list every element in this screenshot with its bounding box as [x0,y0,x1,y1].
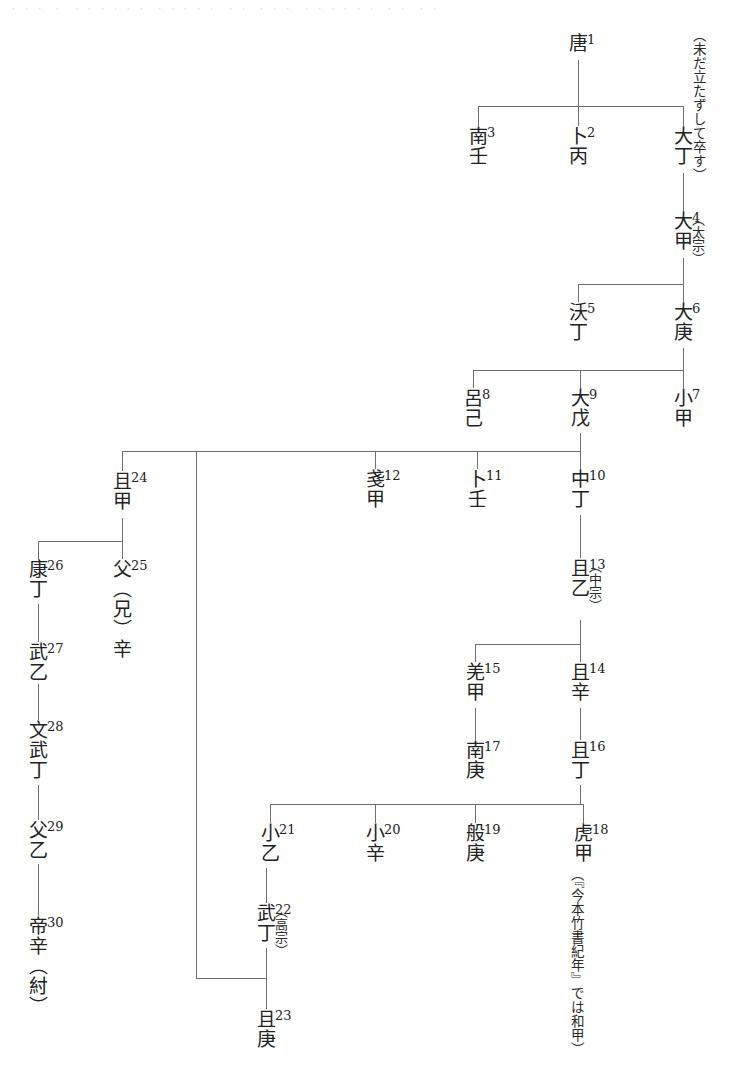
connector-line [473,370,474,388]
node-dajia-4[interactable]: （太宗） 大甲 4 [672,211,706,265]
node-index: 14 [588,662,606,675]
node-kangding-26[interactable]: 康丁 26 [27,559,46,599]
node-tang-1[interactable]: 唐 1 [567,33,586,53]
node-index: 5 [586,302,595,315]
node-woding-5[interactable]: 沃丁 5 [567,302,586,342]
node-index: 9 [588,388,597,401]
connector-line [473,370,684,371]
node-qiangjia-15[interactable]: 羌甲 15 [464,662,483,702]
connector-line [583,804,584,823]
node-name: 小辛 [364,823,383,863]
connector-line [580,785,581,804]
node-index: 17 [483,740,501,753]
node-name: 般庚 [464,823,483,863]
node-index: 22 [274,903,292,916]
node-zujia-24[interactable]: 且甲 24 [111,471,130,511]
connector-line [580,708,581,740]
node-dageng-6[interactable]: 大庚 6 [672,302,691,342]
node-index: 12 [383,469,401,482]
connector-line [122,541,123,559]
node-index: 29 [46,820,64,833]
node-hujia-annotation-wrap: （『今本竹書紀年』では和甲） [570,865,585,1056]
node-index: 6 [691,302,700,315]
node-index: 15 [483,662,501,675]
genealogy-diagram: ・・・ ・ ・・・・・・ ・・・・・ ・・ ・・・ ・・・・・・ ・・ ・・ [0,0,737,1074]
connector-line [375,451,376,469]
connector-line [578,106,579,126]
node-index: 16 [588,740,606,753]
node-dixin-30[interactable]: 帝辛（紂） 30 [27,916,46,1016]
connector-line [122,518,123,541]
node-xiaoxin-20[interactable]: 小辛 20 [364,823,383,863]
node-zuding-16[interactable]: 且丁 16 [569,740,588,780]
node-name: 呂己 [462,388,481,428]
connector-line [683,284,684,302]
node-wenwuding-28[interactable]: 文武丁 28 [27,720,46,780]
node-name: 大戊 [569,388,588,428]
node-index: 1 [586,33,595,46]
node-name: 父（兄）辛 [111,559,130,659]
node-name: 且乙 [569,558,588,598]
node-jianjia-12[interactable]: 戔甲 12 [364,469,383,509]
connector-line [196,978,267,979]
node-index: 4 [691,211,700,224]
node-name: 虎甲 [572,823,591,863]
node-name: 羌甲 [464,662,483,702]
node-name: 中丁 [569,469,588,509]
node-bubing-2[interactable]: 卜丙 2 [567,126,586,166]
node-name: 小甲 [672,388,691,428]
node-zuxin-14[interactable]: 且辛 14 [569,662,588,702]
connector-line [580,620,581,644]
node-name: 唐 [567,33,586,53]
node-index: 13 [588,558,606,571]
node-index: 27 [46,642,64,655]
node-wuyi-27[interactable]: 武乙 27 [27,642,46,682]
node-index: 18 [591,823,609,836]
node-name: 南壬 [467,126,486,166]
node-zuyi-13[interactable]: （中宗） 且乙 13 [569,558,603,612]
node-index: 25 [130,559,148,572]
node-buren-11[interactable]: 卜壬 11 [466,469,485,509]
node-name: 大丁 [672,126,691,166]
node-pangeng-19[interactable]: 般庚 19 [464,823,483,863]
node-nanren-3[interactable]: 南壬 3 [467,126,486,166]
node-name: 戔甲 [364,469,383,509]
node-wuding-22[interactable]: （高宗） 武丁 22 [255,903,289,957]
node-index: 20 [383,823,401,836]
connector-line [196,451,197,979]
node-name: 帝辛（紂） [27,916,46,1016]
node-index: 23 [274,1009,292,1022]
node-fuxiongxin-25[interactable]: 父（兄）辛 25 [111,559,130,659]
node-name: 武丁 [255,903,274,943]
connector-line [375,804,376,823]
connector-line [580,370,581,388]
node-name: 且甲 [111,471,130,511]
connector-line [38,864,39,916]
node-dawu-9[interactable]: 大戊 9 [569,388,588,428]
node-name: 卜壬 [466,469,485,509]
node-lvji-8[interactable]: 呂己 8 [462,388,481,428]
node-name: 南庚 [464,740,483,780]
node-zugeng-23[interactable]: 且庚 23 [255,1009,274,1049]
connector-line [478,106,479,126]
node-fuyi-29[interactable]: 父乙 29 [27,820,46,860]
node-index: 10 [588,469,606,482]
node-name: 沃丁 [567,302,586,342]
connector-line [580,515,581,558]
node-dading[interactable]: 大丁 [672,126,691,166]
node-xiaoyi-21[interactable]: 小乙 21 [259,823,278,863]
node-name: 大庚 [672,302,691,342]
node-index: 3 [486,126,495,139]
node-nangeng-17[interactable]: 南庚 17 [464,740,483,780]
connector-line [477,451,478,469]
node-name: 父乙 [27,820,46,860]
connector-line [683,370,684,388]
connector-line [580,451,581,469]
node-hujia-18[interactable]: 虎甲 18 [572,823,591,863]
node-name: 卜丙 [567,126,586,166]
connector-line [580,644,581,662]
connector-line [578,284,684,285]
node-xiaojia-7[interactable]: 小甲 7 [672,388,691,428]
connector-line [38,604,39,642]
node-zhongding-10[interactable]: 中丁 10 [569,469,588,509]
